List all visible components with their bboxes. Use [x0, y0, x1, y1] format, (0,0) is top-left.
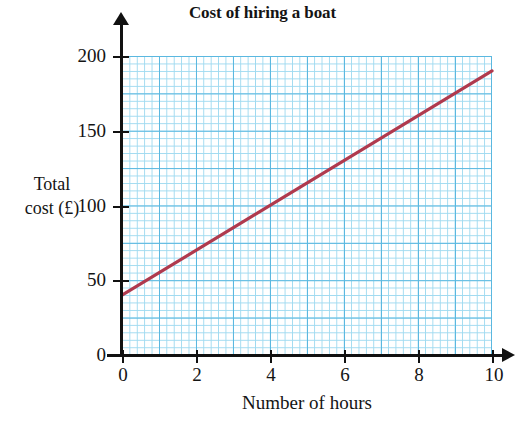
y-tick-mark-50 [113, 280, 129, 282]
x-tick-label-4: 4 [251, 364, 291, 386]
x-tick-mark-6 [344, 350, 346, 363]
y-axis-title: Total cost (£) [6, 172, 98, 220]
grid-right-border [491, 56, 492, 355]
y-axis-line [120, 22, 123, 357]
x-tick-mark-8 [418, 350, 420, 363]
x-tick-label-0: 0 [103, 364, 143, 386]
x-tick-label-6: 6 [325, 364, 365, 386]
x-tick-mark-10 [492, 350, 494, 363]
x-tick-mark-0 [122, 350, 124, 363]
x-axis-title: Number of hours [122, 392, 492, 414]
x-tick-mark-4 [270, 350, 272, 363]
y-tick-label-200: 200 [40, 45, 106, 67]
y-tick-mark-200 [113, 56, 129, 58]
x-axis-arrow-icon [502, 348, 515, 362]
y-tick-label-150: 150 [40, 120, 106, 142]
y-tick-mark-100 [113, 206, 129, 208]
y-axis-title-line2: cost (£) [6, 196, 98, 220]
y-axis-arrow-icon [113, 12, 129, 25]
x-axis-line [107, 354, 503, 357]
chart-title: Cost of hiring a boat [0, 3, 525, 23]
x-tick-mark-2 [196, 350, 198, 363]
y-tick-mark-150 [113, 131, 129, 133]
y-tick-mark-0 [113, 355, 129, 357]
x-tick-label-8: 8 [399, 364, 439, 386]
y-tick-label-0: 0 [40, 344, 106, 366]
x-tick-label-10: 10 [474, 364, 514, 386]
plot-grid-area [122, 56, 492, 355]
y-axis-title-line1: Total [6, 172, 98, 196]
y-tick-label-50: 50 [40, 269, 106, 291]
x-tick-label-2: 2 [177, 364, 217, 386]
grid-top-border [122, 56, 492, 57]
chart-page: Cost of hiring a boat 200 150 100 50 0 0… [0, 0, 525, 428]
